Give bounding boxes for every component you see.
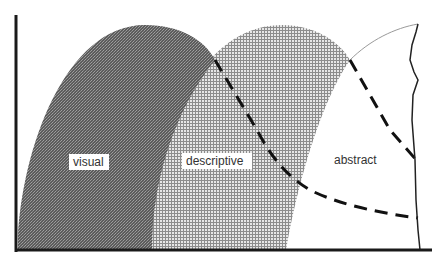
label-descriptive: descriptive	[182, 153, 252, 169]
diagram-canvas: visual descriptive abstract	[0, 0, 444, 272]
diagram-svg	[0, 0, 444, 272]
label-visual: visual	[69, 154, 109, 170]
label-abstract: abstract	[330, 152, 381, 168]
